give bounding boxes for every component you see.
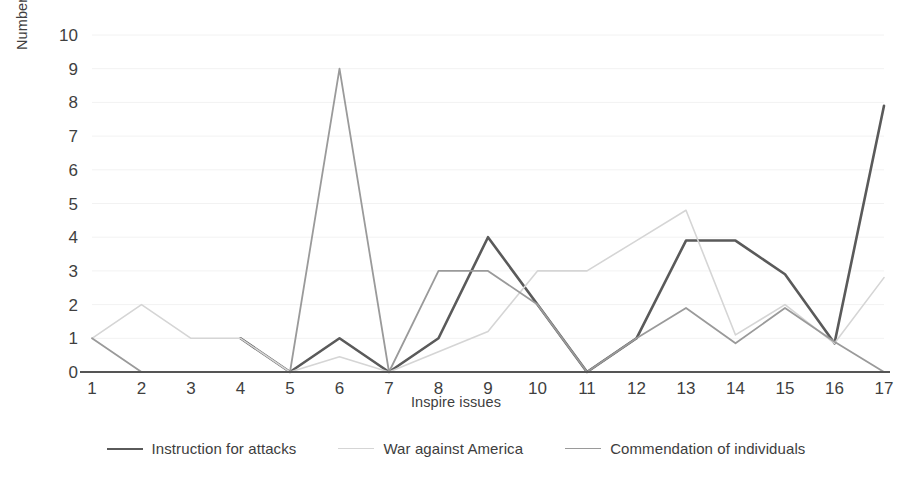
legend-item[interactable]: Instruction for attacks [107, 440, 297, 457]
chart-legend: Instruction for attacksWar against Ameri… [0, 440, 912, 457]
series-line-1 [92, 210, 884, 372]
series-line-2 [92, 69, 884, 372]
plot-area [0, 0, 912, 487]
chart-container: Number of articles per issue 01234567891… [0, 0, 912, 487]
legend-label: Commendation of individuals [610, 440, 805, 457]
legend-swatch-line [107, 448, 143, 450]
series-line-0 [241, 106, 885, 372]
legend-label: Instruction for attacks [152, 440, 297, 457]
legend-item[interactable]: Commendation of individuals [565, 440, 805, 457]
legend-swatch-line [565, 448, 601, 449]
legend-item[interactable]: War against America [338, 440, 523, 457]
legend-swatch-line [338, 448, 374, 449]
legend-label: War against America [383, 440, 523, 457]
x-axis-label: Inspire issues [0, 394, 912, 410]
